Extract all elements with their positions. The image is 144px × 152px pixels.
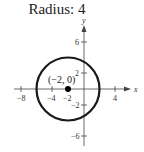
center-point (65, 86, 71, 92)
y-axis-label: y (81, 16, 86, 25)
x-tick-label: −8 (17, 94, 26, 103)
x-tick-label: −4 (47, 94, 56, 103)
coordinate-plane: x −8 −4 −2 4 y 6 2 −2 −6 (−2, 0) (0, 0, 144, 152)
y-tick-label: −2 (71, 101, 80, 110)
y-axis-arrow-icon (82, 25, 87, 32)
center-point-label: (−2, 0) (48, 74, 75, 86)
x-axis-arrow-icon (124, 87, 131, 92)
y-tick-label: 2 (75, 69, 79, 78)
y-tick-label: −6 (71, 132, 80, 141)
x-axis-label: x (133, 85, 138, 94)
x-tick-label: 4 (113, 94, 117, 103)
y-tick-label: 6 (75, 38, 79, 47)
